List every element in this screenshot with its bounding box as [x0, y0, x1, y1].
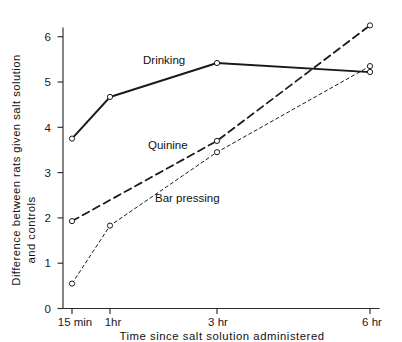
y-tick-label-4: 4	[45, 122, 52, 134]
y-tick-label-0: 0	[45, 303, 51, 315]
y-tick-label-3: 3	[45, 167, 51, 179]
data-point-quinine-15min	[69, 219, 74, 224]
x-tick-label-3hr: 3 hr	[208, 316, 228, 328]
x-tick-marks	[72, 309, 370, 315]
series-bar-pressing-path	[72, 66, 370, 284]
series-label-quinine: Quinine	[148, 139, 188, 151]
y-tick-marks	[58, 37, 64, 309]
y-tick-label-2: 2	[45, 212, 51, 224]
series-label-bar-pressing: Bar pressing	[155, 192, 220, 204]
data-point-bar-pressing-15min	[69, 281, 74, 286]
line-chart-canvas: 6 5 4 3 2 1 0 15 min 1hr 3 hr 6 hr	[0, 0, 402, 342]
series-drinking	[69, 60, 372, 141]
x-tick-labels: 15 min 1hr 3 hr 6 hr	[58, 316, 382, 328]
data-point-quinine-6hr	[367, 23, 372, 28]
series-quinine	[69, 23, 372, 224]
y-axis-title-line-1: Difference between rats given salt solut…	[10, 54, 22, 285]
data-point-drinking-15min	[69, 136, 74, 141]
y-axis-title-group: Difference between rats given salt solut…	[10, 54, 37, 285]
data-point-quinine-3hr	[214, 138, 219, 143]
data-point-bar-pressing-3hr	[214, 150, 219, 155]
data-point-drinking-6hr	[367, 69, 372, 74]
y-tick-label-1: 1	[45, 257, 51, 269]
data-point-bar-pressing-1hr	[107, 223, 112, 228]
y-tick-label-5: 5	[45, 76, 51, 88]
y-tick-label-6: 6	[45, 31, 51, 43]
chart-figure: 6 5 4 3 2 1 0 15 min 1hr 3 hr 6 hr	[0, 0, 402, 342]
x-tick-label-15min: 15 min	[58, 316, 93, 328]
data-point-drinking-3hr	[214, 60, 219, 65]
data-point-bar-pressing-6hr	[367, 64, 372, 69]
data-point-drinking-1hr	[107, 94, 112, 99]
y-axis-title-line-2: and controls	[25, 197, 37, 264]
series-label-drinking: Drinking	[143, 54, 185, 66]
y-tick-labels: 6 5 4 3 2 1 0	[45, 31, 52, 315]
series-quinine-path	[72, 25, 370, 221]
x-axis-title: Time since salt solution administered	[119, 330, 324, 342]
series-bar-pressing	[69, 64, 372, 287]
x-tick-label-1hr: 1hr	[105, 316, 122, 328]
x-tick-label-6hr: 6 hr	[362, 316, 382, 328]
series-drinking-line	[72, 63, 370, 139]
series-annotations: Drinking Quinine Bar pressing	[143, 54, 220, 204]
